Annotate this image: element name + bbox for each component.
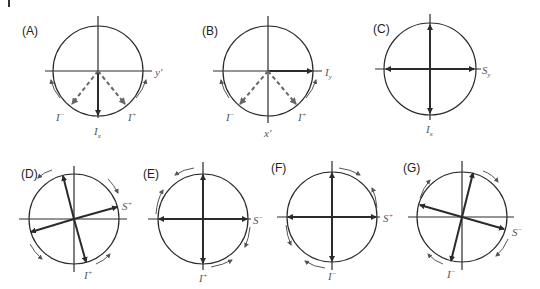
rotation-arrow-bottom-e xyxy=(211,260,232,267)
rotation-arrow-top-f xyxy=(339,168,360,175)
vector-s-minus-g xyxy=(462,217,504,229)
rotation-arrow-left-g xyxy=(420,180,430,198)
vector-diagram-figure: (A) y′ I− I+ Ix (B) Iy I− I+ x′ (C) xyxy=(0,0,540,289)
rotation-arrow-right-e xyxy=(245,227,250,247)
axis-label-y-prime: y′ xyxy=(154,66,163,78)
panel-label-b: (B) xyxy=(202,24,218,38)
label-sy-c: Sy xyxy=(482,64,492,79)
label-ix-c: Ix xyxy=(425,123,434,138)
vector-up-g xyxy=(462,173,473,217)
vector-i-plus-b xyxy=(268,71,296,104)
label-i-minus-a: I− xyxy=(55,111,65,123)
vector-up-d xyxy=(63,176,74,219)
rotation-arrow-top-e xyxy=(175,168,194,175)
rotation-arrow-left-a xyxy=(51,80,60,98)
label-i-plus-b: I+ xyxy=(297,111,307,123)
panel-label-g: (G) xyxy=(403,161,420,175)
label-s-minus-g: S− xyxy=(512,226,523,238)
panel-b: (B) Iy I− I+ x′ xyxy=(202,16,333,139)
vector-i-plus-d xyxy=(74,219,86,262)
panel-label-f: (F) xyxy=(271,161,286,175)
panel-d: (D) S+ I+ xyxy=(19,166,133,281)
panel-label-d: (D) xyxy=(21,167,38,181)
label-i-plus-e: I+ xyxy=(198,272,208,284)
panel-label-c: (C) xyxy=(373,22,390,36)
vector-i-minus-a xyxy=(72,71,98,104)
panel-g: (G) S− I− xyxy=(403,161,523,280)
panel-e: (E) S− I+ xyxy=(143,162,264,284)
label-i-plus-d: I+ xyxy=(83,269,93,281)
vector-i-plus-a xyxy=(98,71,125,104)
label-s-plus-f: S+ xyxy=(383,212,394,224)
vector-i-minus-b xyxy=(240,71,268,104)
vector-left-d xyxy=(31,219,74,232)
rotation-arrow-left-d xyxy=(30,244,42,259)
label-ix-a: Ix xyxy=(93,125,102,140)
vector-left-g xyxy=(420,205,462,217)
panel-a: (A) y′ I− I+ Ix xyxy=(22,16,163,140)
label-s-minus-e: S− xyxy=(253,214,264,226)
rotation-arrow-top-d xyxy=(38,170,52,178)
label-i-minus-b: I− xyxy=(225,111,235,123)
rotation-arrow-top-g xyxy=(483,171,498,182)
rotation-arrow-bottom-d xyxy=(96,254,110,264)
label-iy-b: Iy xyxy=(324,66,333,81)
label-i-minus-f: I− xyxy=(327,270,337,282)
rotation-arrow-right-g xyxy=(496,239,508,256)
rotation-arrow-bottom-g xyxy=(428,254,443,264)
label-s-plus-d: S+ xyxy=(122,200,133,212)
panel-c: (C) Sy Ix xyxy=(373,14,492,138)
label-i-minus-g: I− xyxy=(446,268,456,280)
panel-label-a: (A) xyxy=(22,24,38,38)
rotation-arrow-bottom-f xyxy=(305,261,325,268)
panel-label-e: (E) xyxy=(143,167,159,181)
panel-f: (F) S+ I− xyxy=(271,161,394,282)
label-i-plus-a: I+ xyxy=(127,111,137,123)
vector-s-plus-d xyxy=(74,207,117,219)
vector-i-minus-g xyxy=(451,217,462,261)
axis-label-x-prime: x′ xyxy=(263,127,272,139)
